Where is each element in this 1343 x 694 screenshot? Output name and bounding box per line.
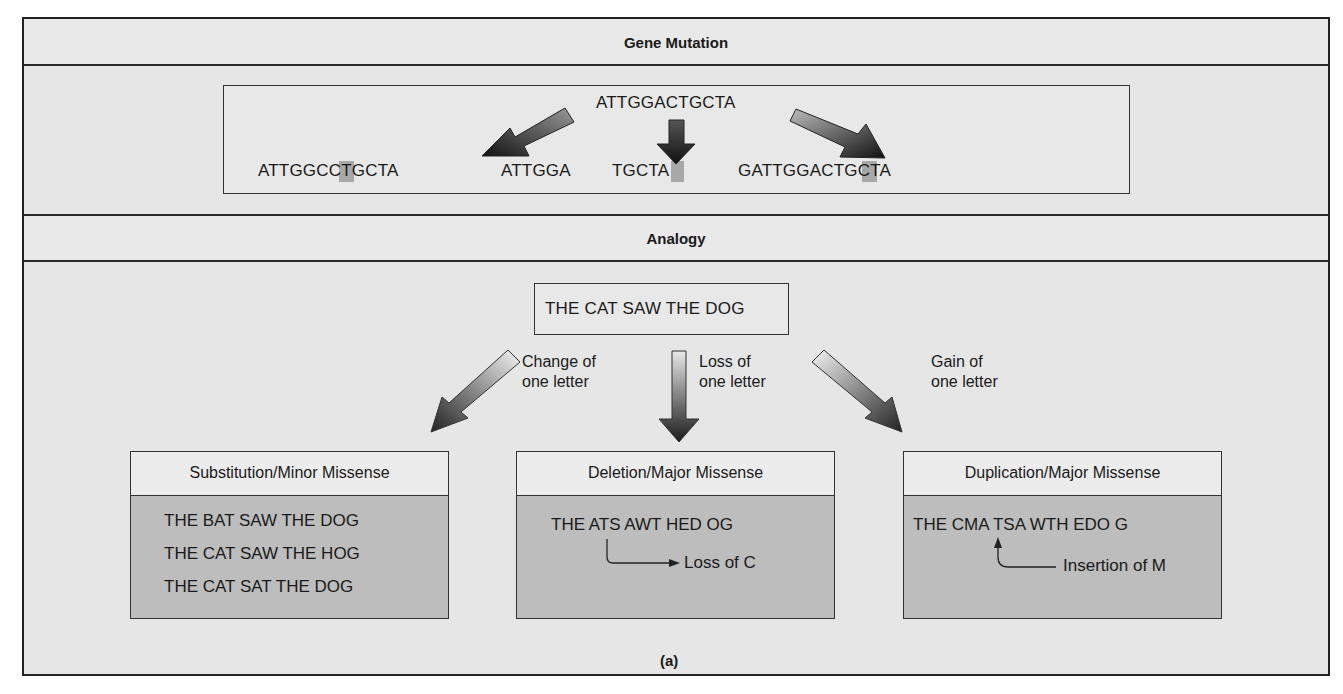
duplication-box: Duplication/Major Missense THE CMA TSA W… — [903, 451, 1222, 619]
gain-label-line1: Gain of — [931, 352, 998, 372]
change-label-line1: Change of — [522, 352, 596, 372]
gain-label-line2: one letter — [931, 372, 998, 392]
loss-pointer-icon — [517, 452, 836, 620]
arrow-gain-icon — [812, 350, 902, 432]
arrow-loss-icon — [659, 351, 699, 442]
substitution-box: Substitution/Minor Missense THE BAT SAW … — [130, 451, 449, 619]
arrow-change-icon — [431, 350, 520, 432]
deletion-annotation: Loss of C — [684, 553, 756, 573]
figure-frame: Gene Mutation ATTGGACTGCTA ATTGGCCTGCTA … — [22, 17, 1330, 676]
gain-label: Gain of one letter — [931, 352, 998, 392]
substitution-line-3: THE CAT SAT THE DOG — [164, 577, 353, 597]
change-label-line2: one letter — [522, 372, 596, 392]
insertion-pointer-icon — [904, 452, 1223, 620]
deletion-box: Deletion/Major Missense THE ATS AWT HED … — [516, 451, 835, 619]
substitution-title: Substitution/Minor Missense — [131, 452, 448, 496]
loss-label-line1: Loss of — [699, 352, 766, 372]
loss-label-line2: one letter — [699, 372, 766, 392]
caption-text: (a) — [660, 652, 678, 669]
substitution-line-1: THE BAT SAW THE DOG — [164, 511, 359, 531]
figure-caption: (a) — [660, 652, 678, 669]
loss-label: Loss of one letter — [699, 352, 766, 392]
change-label: Change of one letter — [522, 352, 596, 392]
substitution-line-2: THE CAT SAW THE HOG — [164, 544, 360, 564]
duplication-annotation: Insertion of M — [1063, 556, 1166, 576]
